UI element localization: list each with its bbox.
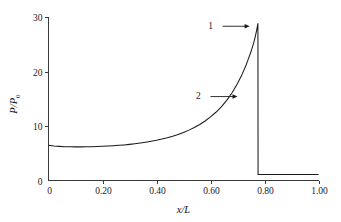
annotation-label-2: 2 <box>196 91 201 101</box>
annotation-2: 2 <box>196 91 238 101</box>
x-axis-ticks <box>104 181 320 185</box>
y-tick-label: 10 <box>33 122 43 132</box>
x-tick-label: 0.20 <box>95 186 112 196</box>
annotation-1: 1 <box>208 21 250 31</box>
y-axis-tick-labels: 0102030 <box>33 13 43 187</box>
y-tick-label: 30 <box>33 13 43 23</box>
x-axis-tick-labels: 00.200.400.600.801.00 <box>47 186 328 196</box>
x-tick-label: 0.80 <box>257 186 274 196</box>
annotation-label-1: 1 <box>208 21 213 31</box>
annotation-arrow-head-2 <box>233 94 238 99</box>
curve-annotations: 12 <box>196 21 250 101</box>
y-axis-title: P/P0 <box>8 94 22 115</box>
y-axis-title-subscript: 0 <box>14 94 22 98</box>
x-axis-title: x/L <box>176 204 191 215</box>
x-tick-label: 0.40 <box>149 186 166 196</box>
x-tick-label: 0.60 <box>203 186 220 196</box>
x-tick-label: 0 <box>47 186 52 196</box>
y-axis-title-main: P/P <box>8 97 19 114</box>
axes-group <box>49 17 319 181</box>
chart-canvas: 0102030 00.200.400.600.801.00 12 x/L P/P… <box>0 0 341 222</box>
y-tick-label: 20 <box>33 68 43 78</box>
pressure-curve <box>49 24 319 175</box>
y-tick-label: 0 <box>38 177 43 187</box>
y-axis-ticks <box>45 18 49 127</box>
x-tick-label: 1.00 <box>311 186 328 196</box>
annotation-arrow-head-1 <box>245 24 250 29</box>
y-axis-title-text: P/P0 <box>8 94 22 115</box>
